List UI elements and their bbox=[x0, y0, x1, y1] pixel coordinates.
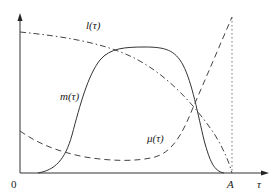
origin-label: 0 bbox=[11, 178, 17, 190]
x-axis-arrow-icon bbox=[261, 171, 269, 176]
tau-axis-label: τ bbox=[257, 178, 262, 190]
l-curve bbox=[20, 32, 232, 173]
m-curve-label: m(τ) bbox=[60, 90, 80, 103]
a-tick-label: A bbox=[226, 178, 234, 190]
axes bbox=[18, 13, 270, 176]
y-axis-arrow-icon bbox=[18, 13, 23, 21]
chart: l(τ) m(τ) μ(τ) 0 A τ bbox=[0, 0, 280, 195]
l-curve-label: l(τ) bbox=[86, 19, 101, 32]
mu-curve bbox=[20, 17, 232, 160]
mu-curve-label: μ(τ) bbox=[146, 132, 164, 145]
